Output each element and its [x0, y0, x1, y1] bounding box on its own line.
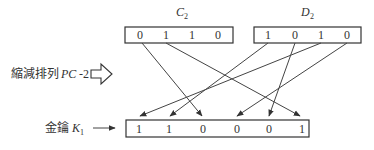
k1-bit-2: 0	[200, 122, 206, 136]
c2-bit-2: 1	[189, 28, 195, 42]
svg-text:-2: -2	[79, 67, 89, 81]
svg-text:2: 2	[310, 12, 314, 21]
svg-text:1: 1	[80, 128, 84, 137]
d2-bit-0: 1	[265, 28, 271, 42]
svg-text:D: D	[300, 5, 310, 19]
d2-label: D 2	[300, 5, 314, 21]
svg-text:2: 2	[184, 12, 188, 21]
k1-bit-5: 1	[299, 122, 305, 136]
svg-text:金鑰: 金鑰	[45, 120, 69, 135]
d2-bit-1: 0	[292, 28, 298, 42]
svg-text:縮減排列: 縮減排列	[11, 66, 59, 81]
hollow-arrow-icon	[91, 64, 112, 84]
wire-d2b2-to-k1b0	[140, 43, 321, 116]
d2-bit-2: 1	[318, 28, 324, 42]
c2-bit-3: 0	[215, 28, 221, 42]
svg-text:PC: PC	[60, 67, 77, 81]
c2-bit-1: 1	[163, 28, 169, 42]
permutation-wires	[140, 43, 347, 116]
k1-bit-3: 0	[234, 122, 240, 136]
k1-key-box	[126, 120, 309, 137]
c2-label: C 2	[176, 5, 188, 21]
k1-bit-1: 1	[166, 122, 172, 136]
wire-c2b0-to-k1b2	[142, 43, 202, 116]
k1-label: 金鑰 K 1	[45, 120, 84, 137]
k1-bit-4: 0	[266, 122, 272, 136]
wire-c2b1-to-k1b5	[166, 43, 300, 116]
pc2-diagram: C 2 D 2 0 1 1 0 1 0 1 0 縮減排列 PC -2 金鑰 K …	[0, 0, 374, 150]
pc2-label: 縮減排列 PC -2	[11, 66, 89, 81]
c2-bit-0: 0	[137, 28, 143, 42]
d2-bit-3: 0	[344, 28, 350, 42]
k1-bit-0: 1	[136, 122, 142, 136]
